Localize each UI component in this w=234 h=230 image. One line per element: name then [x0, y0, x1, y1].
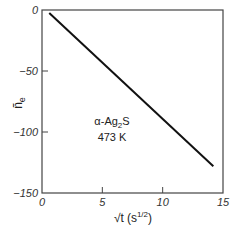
chart: 0−50−100−150 051015 α-Ag2S 473 K ñe √t(s…: [0, 0, 234, 230]
x-tick-label: 0: [39, 196, 46, 208]
x-tick-label: 5: [99, 196, 106, 208]
y-tick-label: −100: [13, 126, 39, 138]
x-axis-label: √t(s1/2): [114, 210, 152, 225]
x-tick-label: 10: [157, 196, 170, 208]
plot-frame: [42, 10, 223, 193]
y-tick-label: −150: [13, 187, 39, 199]
annotation-temperature: 473 K: [98, 131, 127, 143]
y-axis-label: ñe: [11, 97, 27, 109]
x-tick-label: 15: [217, 196, 230, 208]
y-tick-label: −50: [19, 65, 39, 77]
x-axis-ticks: 051015: [39, 187, 230, 208]
series-line: [49, 13, 213, 166]
annotation-compound: α-Ag2S: [94, 115, 129, 130]
data-series: [49, 13, 213, 166]
y-tick-label: 0: [32, 4, 39, 16]
